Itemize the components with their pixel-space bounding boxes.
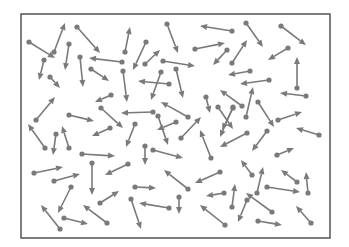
- arrow-origin-dot: [155, 113, 160, 118]
- arrow-origin-dot: [158, 69, 163, 74]
- arrow-origin-dot: [255, 218, 260, 223]
- arrow-origin-dot: [285, 45, 290, 50]
- arrow-origin-dot: [142, 143, 147, 148]
- arrow-origin-dot: [66, 145, 71, 150]
- arrow-origin-dot: [305, 190, 310, 195]
- arrow-origin-dot: [143, 39, 148, 44]
- arrow-origin-dot: [150, 147, 155, 152]
- arrow-origin-dot: [278, 23, 283, 28]
- arrow-origin-dot: [239, 103, 244, 108]
- vector-field-diagram: [0, 0, 349, 247]
- arrow-origin-dot: [128, 196, 133, 201]
- arrow-origin-dot: [31, 170, 36, 175]
- arrow-origin-dot: [173, 119, 178, 124]
- arrow-origin-dot: [41, 57, 46, 62]
- arrow-origin-dot: [77, 54, 82, 59]
- arrow-origin-dot: [132, 121, 137, 126]
- arrow-origin-dot: [42, 145, 47, 150]
- arrow-origin-dot: [274, 152, 279, 157]
- arrow-origin-dot: [308, 220, 313, 225]
- arrow-origin-dot: [224, 47, 229, 52]
- arrow-origin-dot: [215, 104, 220, 109]
- arrow-origin-dot: [88, 66, 93, 71]
- arrow-origin-dot: [221, 190, 226, 195]
- arrow-origin-dot: [247, 68, 252, 73]
- arrow-origin-dot: [164, 21, 169, 26]
- arrow-origin-dot: [229, 60, 234, 65]
- arrow-origin-dot: [51, 49, 56, 54]
- arrow-origin-dot: [66, 112, 71, 117]
- arrow-origin-dot: [108, 92, 113, 97]
- arrow-origin-dot: [47, 74, 52, 79]
- arrow-origin-dot: [243, 20, 248, 25]
- arrow-origin-dot: [166, 205, 171, 210]
- arrow-origin-dot: [125, 161, 130, 166]
- arrow-origin-dot: [203, 94, 208, 99]
- arrow-origin-dot: [150, 109, 155, 114]
- arrow-origin-dot: [264, 128, 269, 133]
- arrow-origin-dot: [222, 222, 227, 227]
- arrow-origin-dot: [104, 220, 109, 225]
- arrow-origin-dot: [192, 46, 197, 51]
- arrow-shaft: [128, 112, 153, 113]
- arrow-origin-dot: [303, 93, 308, 98]
- arrow-origin-dot: [142, 61, 147, 66]
- arrow-origin-dot: [97, 200, 102, 205]
- arrow-origin-dot: [244, 130, 249, 135]
- arrow-origin-dot: [51, 178, 56, 183]
- arrow-origin-dot: [316, 132, 321, 137]
- arrow-origin-dot: [98, 105, 103, 110]
- arrow-origin-dot: [178, 135, 183, 140]
- arrow-origin-dot: [264, 184, 269, 189]
- arrow-origin-dot: [185, 114, 190, 119]
- arrow-origin-dot: [217, 169, 222, 174]
- arrow-origin-dot: [61, 215, 66, 220]
- arrow-origin-dot: [132, 184, 137, 189]
- arrow-origin-dot: [68, 184, 73, 189]
- arrow-origin-dot: [79, 151, 84, 156]
- arrow-origin-dot: [120, 68, 125, 73]
- arrow-origin-dot: [249, 172, 254, 177]
- arrow-origin-dot: [185, 186, 190, 191]
- arrow-origin-dot: [266, 77, 271, 82]
- arrow-origin-dot: [66, 41, 71, 46]
- arrow-origin-dot: [229, 28, 234, 33]
- arrow-origin-dot: [230, 104, 235, 109]
- arrow-origin-dot: [166, 81, 171, 86]
- arrow-origin-dot: [119, 59, 124, 64]
- arrow-origin-dot: [255, 99, 260, 104]
- arrow-origin-dot: [173, 66, 178, 71]
- arrow-origin-dot: [74, 24, 79, 29]
- arrow-origin-dot: [294, 179, 299, 184]
- arrow-origin-dot: [122, 49, 127, 54]
- arrow-origin-dot: [89, 160, 94, 165]
- arrow-origin-dot: [26, 39, 31, 44]
- arrow-origin-dot: [176, 194, 181, 199]
- arrow-origin-dot: [275, 117, 280, 122]
- arrow-origin-dot: [57, 226, 62, 231]
- arrow-origin-dot: [53, 131, 58, 136]
- arrow-origin-dot: [294, 85, 299, 90]
- arrow-origin-dot: [229, 204, 234, 209]
- arrow-origin-dot: [243, 114, 248, 119]
- arrow-origin-dot: [208, 155, 213, 160]
- arrow-origin-dot: [244, 197, 249, 202]
- arrow-origin-dot: [107, 125, 112, 130]
- arrow-origin-dot: [269, 209, 274, 214]
- arrow-origin-dot: [33, 117, 38, 122]
- arrow-origin-dot: [160, 58, 165, 63]
- arrow-origin-dot: [254, 190, 259, 195]
